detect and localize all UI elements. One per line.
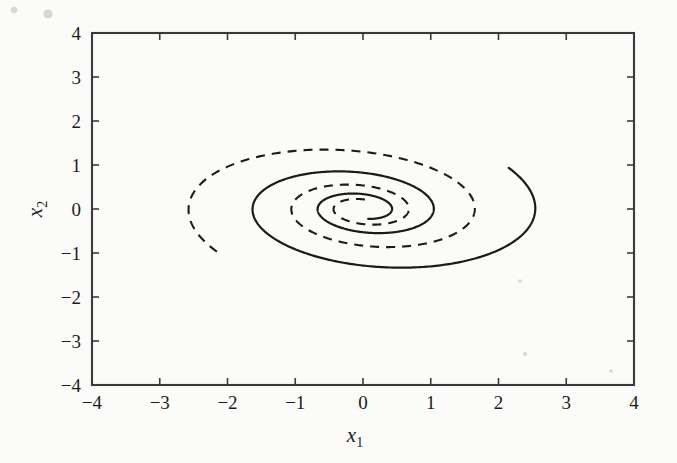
x-tick-label: 1	[426, 392, 436, 413]
x-tick-label: 0	[358, 392, 368, 413]
y-tick-label: 4	[72, 23, 82, 44]
trajectory-solid	[253, 168, 536, 268]
x-axis-ticks	[92, 33, 634, 385]
x-tick-label: 4	[629, 392, 639, 413]
y-tick-label: 0	[72, 199, 82, 220]
y-tick-label: 2	[72, 111, 82, 132]
x-tick-label: −2	[217, 392, 237, 413]
x-tick-label: −3	[150, 392, 170, 413]
y-tick-label: 1	[72, 155, 82, 176]
x-axis-title-subscript: 1	[356, 435, 363, 450]
svg-text:x2: x2	[23, 201, 50, 218]
y-tick-label: −4	[61, 375, 82, 396]
y-axis-title-subscript: 2	[35, 201, 50, 208]
x-tick-label: 2	[494, 392, 504, 413]
y-axis-tick-labels: −4−3−2−101234	[61, 23, 82, 396]
y-tick-label: 3	[72, 67, 82, 88]
y-axis-ticks	[92, 33, 634, 385]
y-tick-label: −2	[61, 287, 81, 308]
y-axis-title: x2	[23, 201, 50, 218]
y-tick-label: −3	[61, 331, 81, 352]
plot-frame	[92, 33, 634, 385]
x-axis-title: x1	[346, 423, 363, 450]
x-tick-label: −4	[82, 392, 103, 413]
figure-page: −4−3−2−101234 −4−3−2−101234 x1 x2	[0, 0, 677, 463]
x-axis-tick-labels: −4−3−2−101234	[82, 392, 639, 413]
phase-plane-plot: −4−3−2−101234 −4−3−2−101234 x1 x2	[0, 0, 677, 463]
x-tick-label: −1	[285, 392, 305, 413]
x-tick-label: 3	[562, 392, 572, 413]
y-tick-label: −1	[61, 243, 81, 264]
svg-text:x1: x1	[346, 423, 363, 450]
